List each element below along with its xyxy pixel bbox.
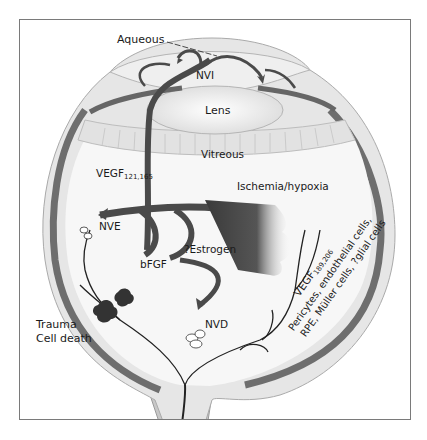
- label-trauma: Trauma: [36, 319, 77, 330]
- label-vegf-121-165: VEGF121,165: [96, 168, 153, 181]
- label-vitreous: Vitreous: [201, 149, 244, 160]
- label-lens: Lens: [205, 105, 230, 116]
- label-nvd: NVD: [205, 319, 228, 330]
- label-estrogen: ?Estrogen: [184, 244, 236, 255]
- label-ischemia-hypoxia: Ischemia/hypoxia: [237, 181, 329, 192]
- label-nvi: NVI: [196, 70, 214, 81]
- label-aqueous: Aqueous: [117, 34, 165, 45]
- label-nve: NVE: [99, 221, 121, 232]
- label-bfgf: bFGF: [140, 259, 167, 270]
- label-cell-death: Cell death: [36, 333, 92, 344]
